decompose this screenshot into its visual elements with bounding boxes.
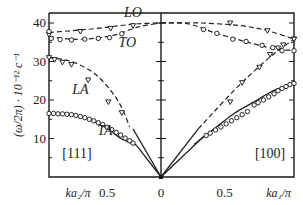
- origin-point: [159, 175, 163, 179]
- annotation-ta: TA: [97, 123, 113, 138]
- left-la-low-curve: [133, 129, 161, 177]
- right-ta-point: [245, 109, 249, 113]
- x-tick-label-left: 0.5: [99, 185, 115, 200]
- right-to-point: [201, 27, 205, 31]
- left-ta-point: [114, 130, 118, 134]
- right-ta-point: [208, 131, 212, 135]
- phonon-dispersion-chart: 10203040(ω/2π) · 10⁻¹² c⁻¹ka₂/π0.500.5ka…: [0, 0, 303, 205]
- right-ta-point: [224, 122, 228, 126]
- left-la-point: [106, 100, 111, 105]
- annotation-lo: LO: [123, 5, 142, 20]
- right-la-point: [281, 43, 286, 48]
- right-ta-point: [213, 128, 217, 132]
- right-ta-point: [219, 125, 223, 129]
- left-lo-point: [108, 26, 113, 31]
- left-ta-point: [51, 111, 55, 115]
- y-tick-label: 40: [33, 15, 46, 30]
- annotation-100: [100]: [255, 146, 285, 161]
- left-la-point: [119, 111, 124, 116]
- right-ta-point: [261, 98, 265, 102]
- left-to-point: [47, 29, 51, 33]
- x-axis-label-right: ka₁/π: [266, 186, 292, 200]
- y-tick-label: 10: [33, 131, 46, 146]
- left-ta-point: [123, 136, 127, 140]
- x-axis-label-left: ka₂/π: [66, 186, 92, 200]
- y-tick-label: 20: [33, 92, 46, 107]
- right-la-point: [228, 100, 233, 105]
- left-ta-point: [83, 116, 87, 120]
- left-lo-point: [130, 24, 135, 29]
- annotation-to: TO: [119, 35, 137, 50]
- left-to-point: [96, 36, 100, 40]
- y-axis-label: (ω/2π) · 10⁻¹² c⁻¹: [11, 53, 25, 137]
- annotation-111: [111]: [62, 146, 91, 161]
- chart-labels: 10203040(ω/2π) · 10⁻¹² c⁻¹ka₂/π0.500.5ka…: [11, 5, 292, 200]
- right-la-point: [267, 53, 272, 58]
- right-to-point: [244, 39, 248, 43]
- left-to-point: [69, 38, 73, 42]
- left-to-point: [58, 37, 62, 41]
- right-to-point: [292, 49, 296, 53]
- right-ta-point: [292, 81, 296, 85]
- left-ta-point: [69, 112, 73, 116]
- left-lo-curve: [49, 23, 161, 33]
- left-ta-low-curve: [136, 145, 161, 177]
- right-to-point: [260, 43, 264, 47]
- y-tick-label: 30: [33, 54, 46, 69]
- left-lo-point: [78, 29, 83, 34]
- left-la-point: [46, 56, 51, 61]
- left-ta-point: [74, 113, 78, 117]
- left-la-point: [60, 60, 65, 65]
- left-la-point: [69, 63, 74, 68]
- right-ta-point: [240, 112, 244, 116]
- right-to-point: [271, 45, 275, 49]
- annotation-la: LA: [71, 82, 89, 97]
- right-la-low-curve: [161, 129, 198, 177]
- x-tick-label-right: 0.5: [216, 185, 232, 200]
- left-ta-point: [78, 114, 82, 118]
- left-ta-point: [60, 112, 64, 116]
- left-ta-point: [118, 133, 122, 137]
- x-tick-label-right: 0: [158, 185, 165, 200]
- right-ta-point: [272, 92, 276, 96]
- right-to-point: [215, 31, 219, 35]
- left-ta-point: [47, 111, 51, 115]
- left-ta-curve: [49, 113, 136, 145]
- right-to-point: [280, 49, 284, 53]
- left-to-point: [49, 36, 53, 40]
- left-to-point: [107, 35, 111, 39]
- right-la-point: [257, 65, 262, 70]
- right-ta-point: [235, 116, 239, 120]
- right-la-curve: [198, 39, 294, 129]
- right-ta-point: [256, 100, 260, 104]
- left-ta-point: [56, 112, 60, 116]
- right-ta-point: [267, 95, 271, 99]
- right-to-point: [231, 37, 235, 41]
- left-to-point: [83, 37, 87, 41]
- left-ta-point: [131, 141, 135, 145]
- right-ta-low-curve: [161, 137, 204, 177]
- left-ta-point: [92, 119, 96, 123]
- right-ta-point: [229, 119, 233, 123]
- left-ta-point: [65, 112, 69, 116]
- right-lo-point: [265, 29, 270, 34]
- left-ta-point: [87, 117, 91, 121]
